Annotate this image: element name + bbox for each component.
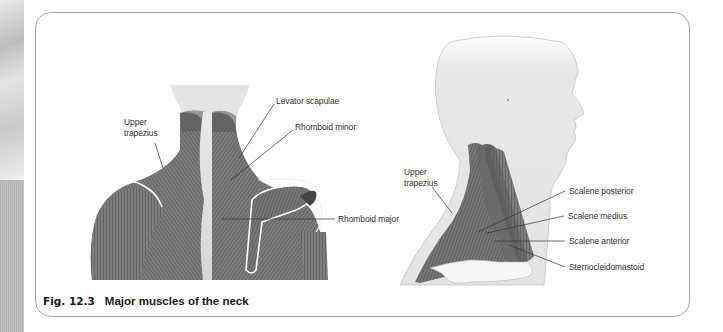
label-line: Upper (404, 167, 438, 178)
label-scalene-posterior: Scalene posterior (569, 186, 633, 197)
label-line: Upper (124, 117, 158, 128)
figure-illustrations (0, 0, 723, 332)
lateral-neck-illustration (400, 36, 584, 285)
figure-title: Major muscles of the neck (105, 295, 249, 307)
figure-caption: Fig. 12.3Major muscles of the neck (43, 295, 249, 307)
label-line: trapezius (404, 178, 438, 189)
figure-number: Fig. 12.3 (43, 295, 95, 307)
label-rhomboid-major: Rhomboid major (338, 214, 399, 225)
label-sternocleidomastoid: Sternocleidomastoid (569, 262, 644, 273)
label-line: trapezius (124, 128, 158, 139)
label-rhomboid-minor: Rhomboid minor (295, 122, 356, 133)
label-upper-trapezius-posterior: Upper trapezius (124, 117, 158, 139)
posterior-neck-illustration (91, 85, 328, 280)
label-upper-trapezius-lateral: Upper trapezius (404, 167, 438, 189)
label-levator-scapulae: Levator scapulae (276, 96, 339, 107)
label-scalene-medius: Scalene medius (568, 211, 627, 222)
label-scalene-anterior: Scalene anterior (569, 236, 629, 247)
